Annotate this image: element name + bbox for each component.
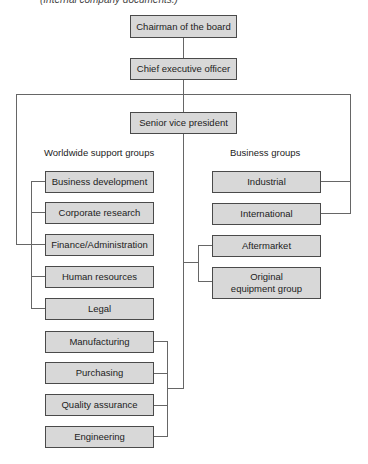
operations-group-box: Manufacturing <box>45 331 154 353</box>
business-group-box: Industrial <box>212 171 321 193</box>
support-group-box: Legal <box>45 298 154 320</box>
connector <box>183 38 184 58</box>
support-group-box: Corporate research <box>45 202 154 224</box>
business-group-box: Aftermarket <box>212 235 321 257</box>
connector <box>183 262 198 263</box>
connector <box>154 341 167 342</box>
connector <box>167 341 168 437</box>
connector <box>31 181 45 182</box>
connector <box>198 245 212 246</box>
figure-caption: (Internal company documents.) <box>40 0 178 5</box>
connector <box>154 373 167 374</box>
connector <box>154 436 167 437</box>
operations-group-box: Purchasing <box>45 362 154 384</box>
connector <box>321 181 351 182</box>
chairman-box: Chairman of the board <box>130 15 237 38</box>
connector <box>31 308 45 309</box>
connector <box>198 281 212 282</box>
support-group-box: Business development <box>45 171 154 193</box>
svp-box: Senior vice president <box>130 112 237 134</box>
connector <box>16 94 17 245</box>
operations-group-box: Engineering <box>45 426 154 448</box>
support-groups-header: Worldwide support groups <box>44 147 154 158</box>
business-groups-header: Business groups <box>230 147 300 158</box>
connector <box>31 276 45 277</box>
business-group-box: International <box>212 203 321 225</box>
business-group-box: Original equipment group <box>212 267 321 299</box>
connector <box>350 94 351 214</box>
ceo-bar <box>16 94 351 95</box>
support-group-box: Human resources <box>45 266 154 288</box>
connector <box>198 245 199 282</box>
connector <box>183 80 184 112</box>
operations-group-box: Quality assurance <box>45 394 154 416</box>
support-group-box: Finance/Administration <box>45 234 154 256</box>
connector <box>167 388 184 389</box>
ceo-box: Chief executive officer <box>130 58 237 80</box>
connector <box>31 181 32 309</box>
connector <box>31 212 45 213</box>
connector <box>321 213 351 214</box>
connector <box>154 405 167 406</box>
